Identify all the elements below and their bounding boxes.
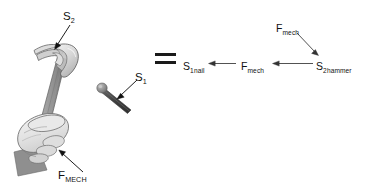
node-s1nail: S1nail bbox=[183, 57, 205, 74]
node-fmech-middle: Fmech bbox=[241, 57, 264, 74]
node-fmech-top: Fmech bbox=[276, 19, 299, 36]
arrow-fmechtop-to-s2hammer bbox=[297, 33, 319, 56]
s1-pointer-arrow bbox=[117, 80, 137, 99]
nail bbox=[97, 83, 131, 114]
arrow-fmech-to-s1nail bbox=[209, 61, 237, 66]
node-s2hammer: S2hammer bbox=[316, 57, 352, 74]
label-fmech-hand: FMECH bbox=[58, 166, 87, 183]
label-s1-nail-pointer: S1 bbox=[135, 68, 147, 85]
illustration-layer: S_1nail : leftwards --> F_mech(mid) : le… bbox=[0, 0, 368, 188]
label-s2-hammer-pointer: S2 bbox=[63, 7, 75, 24]
physics-figure: S_1nail : leftwards --> F_mech(mid) : le… bbox=[0, 0, 368, 188]
equals-sign bbox=[155, 52, 176, 66]
arrow-s2hammer-to-fmech bbox=[273, 61, 314, 66]
equals-bar-bottom bbox=[155, 61, 176, 64]
equals-bar-top bbox=[155, 53, 176, 56]
